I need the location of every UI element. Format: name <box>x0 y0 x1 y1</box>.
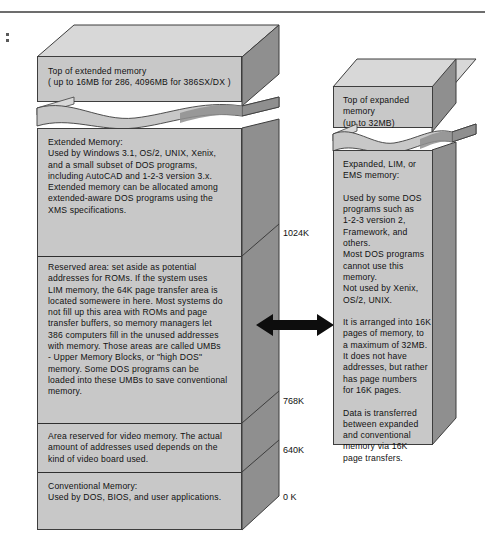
tick-0k-label: 0 K <box>283 492 297 502</box>
section-reserved-area-text: Reserved area: set aside as potential ad… <box>48 262 240 398</box>
divider-1024k <box>38 256 241 257</box>
left-block-header-text: Top of extended memory ( up to 16MB for … <box>48 66 243 89</box>
expanded-memory-description-text: Expanded, LIM, or EMS memory: Used by so… <box>343 159 435 464</box>
right-block-body-side-face <box>430 140 485 460</box>
tick-768k-label: 768K <box>283 396 304 406</box>
expanded-memory-block: Top of expanded memory (up to 32MB) Expa… <box>320 0 485 555</box>
left-block-body-panel: Extended Memory: Used by Windows 3.1, OS… <box>37 128 242 530</box>
section-extended-memory-text: Extended Memory: Used by Windows 3.1, OS… <box>48 137 240 216</box>
figure-canvas: Top of extended memory ( up to 16MB for … <box>0 0 485 555</box>
extended-memory-block: Top of extended memory ( up to 16MB for … <box>0 0 320 555</box>
tick-640k-label: 640K <box>283 445 304 455</box>
section-video-memory-text: Area reserved for video memory. The actu… <box>48 431 240 465</box>
right-block-body-panel: Expanded, LIM, or EMS memory: Used by so… <box>333 150 433 445</box>
divider-768k <box>38 423 241 424</box>
tick-1024k-label: 1024K <box>283 228 309 238</box>
divider-640k <box>38 472 241 473</box>
section-conventional-memory-text: Conventional Memory: Used by DOS, BIOS, … <box>48 481 243 504</box>
